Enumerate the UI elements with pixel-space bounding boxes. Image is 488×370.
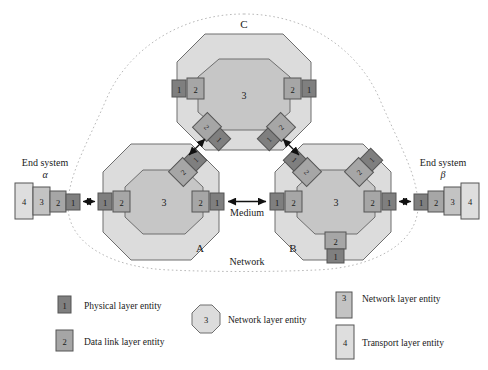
node-a-port-left-datalink-label: 2 — [119, 198, 123, 208]
legend-network-octagon-symbol: 3 — [204, 315, 208, 325]
node-c-port-right: 2 1 — [284, 78, 316, 99]
node-b-letter: B — [289, 242, 296, 254]
node-b-port-left-physical-label: 1 — [275, 198, 279, 208]
node-b-network-entity-label: 3 — [334, 197, 339, 208]
node-c-port-left-datalink-label: 2 — [193, 85, 197, 95]
end-system-right-greek: β — [440, 169, 446, 180]
legend-network-box-label: Network layer entity — [362, 294, 441, 304]
node-a-port-left-physical-label: 1 — [103, 198, 107, 208]
end-system-right-physical-label: 1 — [419, 198, 423, 208]
diagram-canvas: 3 1 2 2 1 2 1 2 1 C — [0, 0, 488, 370]
node-b-port-bottom-physical-label: 1 — [333, 252, 337, 262]
node-a-network-entity-label: 3 — [162, 197, 167, 208]
network-layering-diagram: 3 1 2 2 1 2 1 2 1 C — [0, 0, 488, 370]
end-system-right-datalink-label: 2 — [434, 198, 438, 208]
node-c-letter: C — [240, 18, 247, 30]
node-a-port-right: 2 1 — [192, 191, 224, 212]
end-system-left-network-label: 3 — [39, 197, 43, 207]
node-b-port-left-datalink-label: 2 — [291, 198, 295, 208]
legend-network-octagon-label: Network layer entity — [228, 315, 307, 325]
node-c-port-right-physical-label: 1 — [307, 85, 311, 95]
node-b-port-left: 1 2 — [270, 191, 302, 212]
node-c-port-left: 1 2 — [172, 78, 204, 99]
legend-transport-label: Transport layer entity — [362, 338, 444, 348]
node-b-port-right: 2 1 — [364, 191, 396, 212]
legend-datalink-label: Data link layer entity — [84, 337, 165, 347]
legend-physical-label: Physical layer entity — [84, 301, 162, 311]
network-label: Network — [230, 256, 265, 267]
node-b-port-right-physical-label: 1 — [387, 198, 391, 208]
node-a-port-right-datalink-label: 2 — [198, 198, 202, 208]
legend-datalink-symbol: 2 — [62, 337, 66, 347]
end-system-right-title: End system — [420, 157, 467, 168]
end-system-left-physical-label: 1 — [71, 198, 75, 208]
node-b-port-bottom: 2 1 — [325, 232, 346, 263]
legend-physical-symbol: 1 — [62, 301, 66, 311]
end-system-right-network-label: 3 — [450, 197, 454, 207]
node-a-port-right-physical-label: 1 — [215, 198, 219, 208]
node-c-port-right-datalink-label: 2 — [290, 85, 294, 95]
node-c-port-left-physical-label: 1 — [177, 85, 181, 95]
end-system-left-greek: α — [42, 169, 48, 180]
node-b-port-right-datalink-label: 2 — [370, 198, 374, 208]
node-a: 3 1 2 2 1 2 1 A — [98, 144, 224, 260]
node-a-port-left: 1 2 — [98, 191, 130, 212]
legend-network-box-symbol: 3 — [342, 293, 346, 303]
node-b: 3 1 2 2 1 2 1 2 1 — [270, 144, 396, 263]
node-a-letter: A — [196, 242, 204, 254]
end-system-left-datalink-label: 2 — [56, 198, 60, 208]
medium-label: Medium — [230, 207, 264, 218]
node-b-port-bottom-datalink-label: 2 — [333, 237, 337, 247]
end-system-left-title: End system — [22, 157, 69, 168]
node-c-network-entity-label: 3 — [242, 90, 247, 101]
